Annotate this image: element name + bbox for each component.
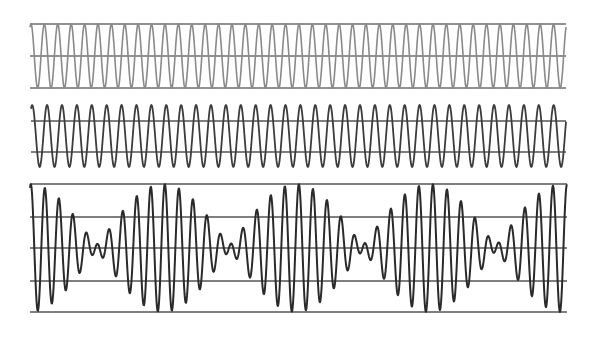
- beat-waveform-figure: [0, 0, 600, 339]
- beat-reference-lines: [30, 184, 567, 312]
- waveform-canvas: [0, 0, 600, 339]
- top-sine-panel: [30, 24, 566, 88]
- middle-sine-panel: [31, 105, 566, 167]
- middle-sine-wave: [31, 105, 566, 167]
- beat-wave-panel: [30, 184, 567, 312]
